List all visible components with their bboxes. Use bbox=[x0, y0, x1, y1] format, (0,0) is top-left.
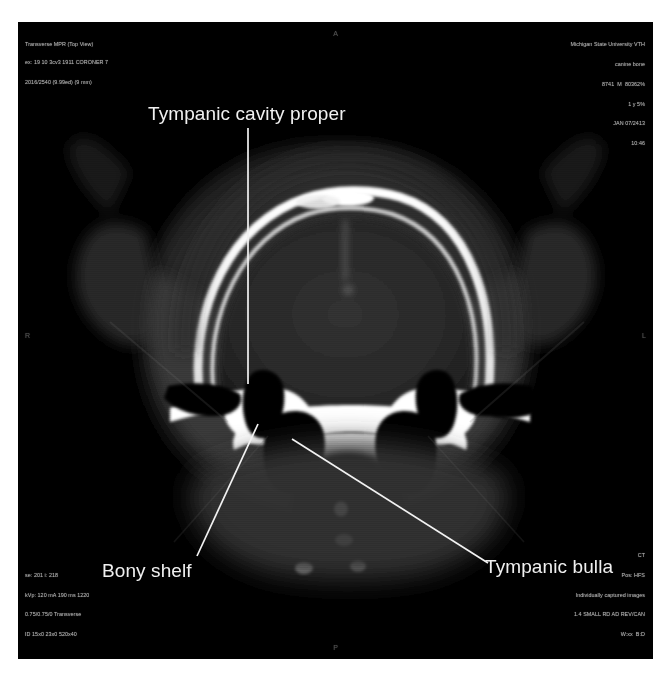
meta-tr-line6: 10:46 bbox=[570, 140, 645, 147]
meta-tr-line2: canine bone bbox=[570, 61, 645, 68]
meta-tr-line3: 8741 M 80362% bbox=[570, 81, 645, 88]
ventral-soft-tissue bbox=[191, 440, 507, 581]
meta-bl-line2: kVp: 120 mA 190 ms 1220 bbox=[25, 592, 89, 599]
meta-tl-line3: 2016/2540 (9.99ed) (9 mm) bbox=[25, 79, 108, 86]
orientation-marker-left: R bbox=[25, 332, 30, 339]
annotation-label-tympanic-cavity-proper: Tympanic cavity proper bbox=[148, 103, 346, 125]
meta-tr-line5: JAN 07/2413 bbox=[570, 120, 645, 127]
meta-bl-line1: se: 201 i: 218 bbox=[25, 572, 89, 579]
orientation-marker-top: A bbox=[333, 30, 338, 37]
metadata-top-right: Michigan State University VTH canine bon… bbox=[570, 28, 645, 160]
meta-tr-line1: Michigan State University VTH bbox=[570, 41, 645, 48]
annotation-label-tympanic-bulla: Tympanic bulla bbox=[485, 556, 613, 578]
metadata-bottom-left: se: 201 i: 218 kVp: 120 mA 190 ms 1220 0… bbox=[25, 559, 89, 651]
meta-tl-line2: ex: 19 10 3cv3 1911 CORONER 7 bbox=[25, 59, 108, 66]
meta-bl-line3: 0.75/0.75/0 Transverse bbox=[25, 611, 89, 618]
annotation-label-bony-shelf: Bony shelf bbox=[102, 560, 192, 582]
metadata-top-left-block2: ex: 19 10 3cv3 1911 CORONER 7 2016/2540 … bbox=[25, 46, 108, 99]
meta-bl-line4: ID 15x0 23x0 520x40 bbox=[25, 631, 89, 638]
screenshot-root: Transverse MPR (Top View) ex: 19 10 3cv3… bbox=[0, 0, 671, 683]
orientation-marker-right: L bbox=[642, 332, 646, 339]
orientation-marker-bottom: P bbox=[333, 644, 338, 651]
meta-br-line5: W:xx B:D bbox=[574, 631, 645, 638]
meta-br-line3: Individually captured images bbox=[574, 592, 645, 599]
meta-br-line4: 1.4 SMALL RD AD REV/CAN bbox=[574, 611, 645, 618]
meta-tr-line4: 1 y 5% bbox=[570, 101, 645, 108]
